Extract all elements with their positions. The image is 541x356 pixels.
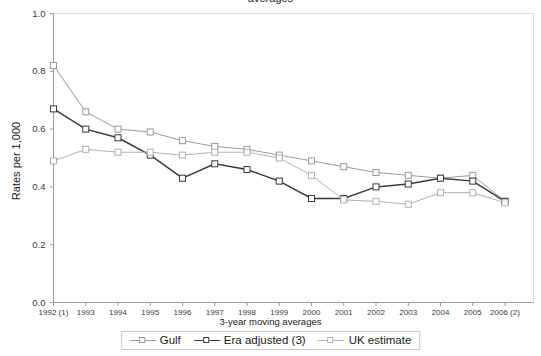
y-axis-title: Rates per 1,000 bbox=[10, 101, 22, 221]
data-point bbox=[212, 143, 218, 149]
data-point bbox=[373, 198, 379, 204]
y-tick-label-5: 1.0 bbox=[16, 8, 46, 19]
x-tick-label-2: 1994 bbox=[109, 308, 127, 317]
data-point bbox=[180, 175, 186, 181]
data-point bbox=[470, 172, 476, 178]
x-tick-label-1: 1993 bbox=[77, 308, 95, 317]
data-point bbox=[341, 197, 347, 203]
data-point bbox=[212, 161, 218, 167]
data-point bbox=[51, 158, 57, 164]
chart-legend: GulfEra adjusted (3)UK estimate bbox=[121, 331, 421, 350]
data-point bbox=[438, 190, 444, 196]
data-point bbox=[83, 146, 89, 152]
x-tick-label-14: 2006 (2) bbox=[490, 308, 520, 317]
data-point bbox=[147, 149, 153, 155]
data-point bbox=[244, 167, 250, 173]
data-point bbox=[309, 195, 315, 201]
x-tick-label-7: 1999 bbox=[270, 308, 288, 317]
data-point bbox=[309, 172, 315, 178]
data-point bbox=[147, 129, 153, 135]
legend-item-2[interactable]: UK estimate bbox=[319, 334, 412, 346]
legend-item-label: Era adjusted (3) bbox=[224, 334, 306, 346]
data-point bbox=[341, 164, 347, 170]
y-tick-label-4: 0.8 bbox=[16, 65, 46, 76]
x-axis-title: 3-year moving averages bbox=[0, 316, 541, 327]
chart-container: averages Rates per 1,000 3-year moving a… bbox=[0, 0, 541, 356]
x-tick-label-11: 2003 bbox=[399, 308, 417, 317]
y-tick-label-2: 0.4 bbox=[16, 181, 46, 192]
series-lines bbox=[51, 63, 509, 208]
x-tick-label-9: 2001 bbox=[335, 308, 353, 317]
data-point bbox=[51, 106, 57, 112]
data-point bbox=[51, 63, 57, 69]
data-point bbox=[244, 149, 250, 155]
data-point bbox=[212, 149, 218, 155]
y-tick-label-0: 0.0 bbox=[16, 297, 46, 308]
legend-swatch-icon bbox=[194, 336, 220, 345]
legend-swatch-icon bbox=[319, 336, 345, 345]
data-point bbox=[373, 169, 379, 175]
x-tick-label-0: 1992 (1) bbox=[39, 308, 69, 317]
x-tick-label-3: 1995 bbox=[141, 308, 159, 317]
data-point bbox=[276, 178, 282, 184]
x-tick-label-4: 1996 bbox=[174, 308, 192, 317]
x-tick-label-10: 2002 bbox=[367, 308, 385, 317]
data-point bbox=[438, 175, 444, 181]
x-tick-label-6: 1998 bbox=[238, 308, 256, 317]
data-point bbox=[470, 178, 476, 184]
data-point bbox=[405, 201, 411, 207]
legend-item-1[interactable]: Era adjusted (3) bbox=[194, 334, 306, 346]
data-point bbox=[115, 149, 121, 155]
legend-item-label: UK estimate bbox=[349, 334, 412, 346]
data-point bbox=[405, 172, 411, 178]
x-tick-label-12: 2004 bbox=[432, 308, 450, 317]
plot-area bbox=[0, 0, 541, 356]
data-point bbox=[83, 126, 89, 132]
data-point bbox=[405, 181, 411, 187]
y-tick-label-3: 0.6 bbox=[16, 123, 46, 134]
data-point bbox=[83, 109, 89, 115]
x-tick-label-13: 2005 bbox=[464, 308, 482, 317]
axes bbox=[50, 14, 534, 307]
data-point bbox=[180, 138, 186, 144]
x-tick-label-8: 2000 bbox=[303, 308, 321, 317]
data-point bbox=[309, 158, 315, 164]
data-point bbox=[276, 155, 282, 161]
data-point bbox=[180, 152, 186, 158]
x-tick-label-5: 1997 bbox=[206, 308, 224, 317]
data-point bbox=[115, 135, 121, 141]
data-point bbox=[502, 200, 508, 206]
legend-swatch-icon bbox=[130, 336, 156, 345]
legend-item-0[interactable]: Gulf bbox=[130, 334, 181, 346]
data-point bbox=[115, 126, 121, 132]
data-point bbox=[373, 184, 379, 190]
y-tick-label-1: 0.2 bbox=[16, 239, 46, 250]
data-point bbox=[470, 190, 476, 196]
legend-item-label: Gulf bbox=[160, 334, 181, 346]
